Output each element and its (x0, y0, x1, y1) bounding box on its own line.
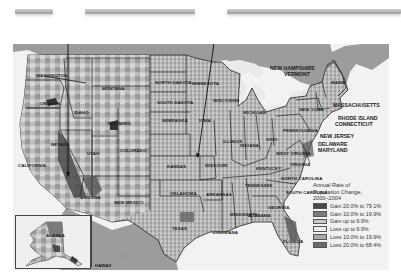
legend-label: Loss up to 9.9% (330, 226, 369, 232)
legend-swatch (313, 219, 327, 225)
state-label-washington: WASHINGTON (36, 73, 67, 78)
legend-item-gain-low: Gain up to 9.9% (313, 218, 401, 225)
ne-label-vermont: VERMONT (284, 71, 310, 77)
state-label-minnesota: MINNESOTA (192, 81, 219, 86)
legend-swatch (313, 226, 327, 232)
state-label-iowa: IOWA (199, 118, 211, 123)
state-label-missouri: MISSOURI (205, 163, 228, 168)
legend-label: Loss 10.0% to 19.9% (330, 234, 381, 240)
legend-label: Loss 20.0% to 68.4% (330, 242, 381, 248)
state-label-ohio: OHIO (266, 137, 278, 142)
legend-swatch (313, 211, 327, 217)
state-label-south-dakota: SOUTH DAKOTA (157, 100, 193, 105)
legend-item-loss-mid: Loss 10.0% to 19.9% (313, 233, 401, 240)
alaska-shape (16, 216, 90, 268)
state-label-arizona: ARIZONA (80, 195, 101, 200)
state-label-arkansas: ARKANSAS (206, 192, 232, 197)
legend-swatch (313, 203, 327, 209)
legend-item-gain-mid: Gain 10.0% to 19.9% (313, 210, 401, 217)
legend-swatch (313, 234, 327, 240)
state-label-mississippi: MISSISSIPPI (230, 212, 257, 217)
state-label-california: CALIFORNIA (18, 163, 46, 168)
state-label-montana: MONTANA (102, 86, 125, 91)
state-label-north-carolina: NORTH CAROLINA (281, 176, 322, 181)
ne-label-massachusetts: MASSACHUSETTS (333, 102, 380, 108)
ne-label-new-jersey: NEW JERSEY (320, 133, 354, 139)
state-label-michigan: MICHIGAN (243, 110, 266, 115)
state-label-kentucky: KENTUCKY (256, 166, 281, 171)
state-label-pennsylvania: PENNSYLVANIA (283, 128, 318, 133)
inset-divider (91, 215, 92, 267)
alaska-label: ALASKA (46, 233, 65, 238)
state-label-new-york: NEW YORK (299, 107, 324, 112)
legend-swatch (313, 242, 327, 248)
state-label-nebraska: NEBRASKA (162, 118, 188, 123)
state-label-utah: UTAH (87, 151, 99, 156)
texas-growth (180, 212, 194, 222)
legend-item-loss-low: Loss up to 9.9% (313, 226, 401, 233)
legend-item-gain-high: Gain 20.0% to 79.1% (313, 202, 401, 209)
callout-label-bar-2 (85, 9, 195, 14)
state-label-wisconsin: WISCONSIN (213, 98, 239, 103)
legend-label: Gain 20.0% to 79.1% (330, 203, 381, 209)
state-label-idaho: IDAHO (74, 110, 89, 115)
state-label-tennessee: TENNESSEE (245, 183, 273, 188)
legend-label: Gain up to 9.9% (330, 218, 369, 224)
ne-label-connecticut: CONNECTICUT (335, 121, 373, 127)
legend-title-line-1: Annual Rate of (313, 182, 401, 189)
ne-label-maryland: MARYLAND (318, 147, 348, 153)
state-label-oregon: OREGON (40, 101, 60, 106)
state-label-new-mexico: NEW MEXICO (114, 200, 144, 205)
state-label-west-virginia: WEST VIRGINIA (276, 151, 311, 156)
state-label-oklahoma: OKLAHOMA (170, 191, 197, 196)
state-label-north-dakota: NORTH DAKOTA (155, 80, 191, 85)
legend-title-line-3: 2000–2004 (313, 195, 401, 202)
state-label-kansas: KANSAS (167, 164, 186, 169)
state-label-texas: TEXAS (172, 226, 187, 231)
state-label-maine: MAINE (331, 80, 346, 85)
state-label-colorado: COLORADO (120, 148, 146, 153)
callout-label-bar-3 (227, 9, 401, 14)
state-label-nevada: NEVADA (51, 142, 70, 147)
state-label-georgia: GEORGIA (268, 205, 289, 210)
legend-label: Gain 10.0% to 19.9% (330, 211, 381, 217)
state-label-louisiana: LOUISIANA (213, 230, 238, 235)
state-label-indiana: INDIANA (240, 143, 259, 148)
callout-label-bar-1 (15, 9, 53, 14)
legend-title-line-2: Population Change, (313, 189, 401, 196)
state-label-wyoming: WYOMING (108, 121, 131, 126)
map-legend: Annual Rate of Population Change, 2000–2… (313, 182, 401, 248)
hawaii-label: HAWAII (95, 263, 111, 268)
state-label-virginia: VIRGINIA (290, 162, 310, 167)
legend-item-loss-high: Loss 20.0% to 68.4% (313, 241, 401, 248)
alaska-inset (15, 215, 91, 269)
state-label-florida: FLORIDA (283, 239, 303, 244)
